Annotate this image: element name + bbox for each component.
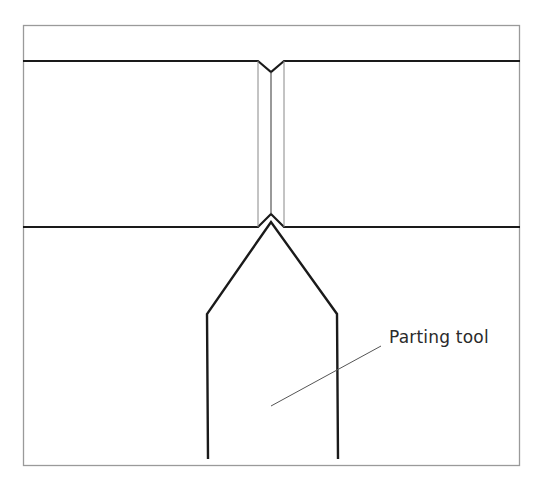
parting-tool-label: Parting tool [389, 327, 489, 347]
parting-tool-diagram [0, 0, 538, 484]
parting-tool-outline [207, 222, 338, 459]
workpiece-top-edge [23, 61, 520, 72]
workpiece-bottom-edge [23, 214, 520, 227]
label-leader-line [271, 346, 381, 406]
